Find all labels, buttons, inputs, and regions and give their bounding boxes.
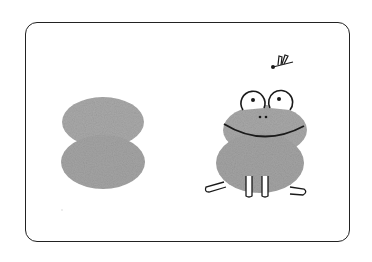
speck <box>61 209 62 210</box>
frog-icon <box>205 90 307 197</box>
fingerprint-blobs <box>61 97 145 189</box>
dragonfly-icon <box>271 55 293 69</box>
illustration-canvas <box>0 0 372 262</box>
